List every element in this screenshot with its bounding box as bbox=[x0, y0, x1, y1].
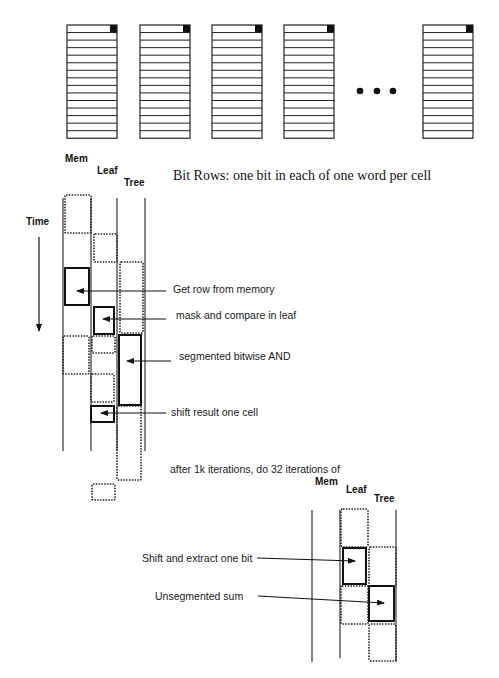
annotation-unsegmented-sum: Unsegmented sum bbox=[155, 590, 243, 602]
annotation-shift-result: shift result one cell bbox=[171, 406, 258, 418]
solid-boxes-lower bbox=[343, 548, 394, 621]
bit-marker-icon bbox=[255, 25, 262, 33]
word-stack-3 bbox=[212, 25, 262, 138]
bit-marker-icon bbox=[183, 25, 190, 33]
annotation-arrows-lower bbox=[257, 558, 384, 603]
column-label-tree: Tree bbox=[124, 177, 145, 188]
bit-rows-caption: Bit Rows: one bit in each of one word pe… bbox=[173, 168, 431, 184]
ellipsis-dots-icon bbox=[357, 88, 397, 95]
column-label-mem: Mem bbox=[65, 153, 88, 164]
unsegmented-sum-box bbox=[369, 586, 394, 621]
word-stack-2 bbox=[140, 25, 190, 138]
bit-marker-icon bbox=[466, 25, 473, 33]
transition-text: after 1k iterations, do 32 iterations of bbox=[170, 463, 340, 475]
mask-compare-box bbox=[94, 307, 114, 334]
column-label-leaf: Leaf bbox=[97, 165, 118, 176]
bit-marker-icon bbox=[110, 25, 117, 33]
column-label-mem-lower: Mem bbox=[315, 476, 338, 487]
annotation-mask-compare: mask and compare in leaf bbox=[176, 309, 296, 321]
dotted-boxes-upper bbox=[63, 195, 143, 500]
get-row-box bbox=[65, 268, 89, 305]
bit-marker-icon bbox=[327, 25, 334, 33]
word-stack-4 bbox=[284, 25, 334, 138]
annotation-get-row: Get row from memory bbox=[173, 283, 275, 295]
annotation-shift-extract: Shift and extract one bit bbox=[142, 552, 252, 564]
shift-extract-box bbox=[343, 548, 366, 584]
diagram-canvas bbox=[0, 0, 499, 678]
column-label-leaf-lower: Leaf bbox=[346, 484, 367, 495]
segmented-and-box bbox=[119, 335, 141, 405]
word-stack-1 bbox=[67, 25, 117, 138]
annotation-segmented-and: segmented bitwise AND bbox=[179, 350, 290, 362]
column-label-tree-lower: Tree bbox=[374, 493, 395, 504]
word-stack-5 bbox=[423, 25, 473, 138]
shift-result-box bbox=[91, 406, 114, 422]
time-label: Time bbox=[26, 216, 49, 227]
